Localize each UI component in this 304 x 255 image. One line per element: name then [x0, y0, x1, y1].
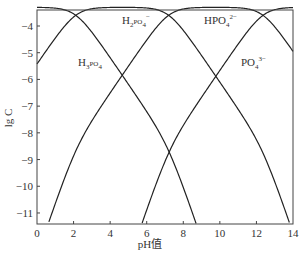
- y-axis-label: lg C: [2, 109, 14, 128]
- plot-frame: [37, 10, 293, 224]
- curve-h2po4: [37, 7, 289, 222]
- x-tick-label: 2: [71, 227, 77, 239]
- y-tick-label: −7: [21, 100, 33, 112]
- curve-po4: [142, 8, 293, 223]
- y-axis-ticks: −4−5−6−7−8−9−10−11: [16, 20, 40, 219]
- y-tick-label: −11: [16, 207, 33, 219]
- x-tick-label: 8: [181, 227, 187, 239]
- y-tick-label: −10: [16, 180, 34, 192]
- x-tick-label: 14: [288, 227, 300, 239]
- label-hpo4: HPO42−: [204, 13, 237, 29]
- x-tick-label: 12: [251, 227, 262, 239]
- y-tick-label: −8: [21, 127, 33, 139]
- label-po4: PO43−: [241, 55, 266, 71]
- curve-h3po4: [37, 7, 196, 223]
- x-tick-label: 10: [214, 227, 226, 239]
- x-tick-label: 4: [107, 227, 113, 239]
- y-tick-label: −9: [21, 154, 33, 166]
- plot-curves: [37, 7, 293, 223]
- x-tick-label: 0: [34, 227, 40, 239]
- y-tick-label: −6: [21, 73, 33, 85]
- y-tick-label: −4: [21, 20, 33, 32]
- phosphate-distribution-chart: 02468101214 −4−5−6−7−8−9−10−11 H2PO4−H3P…: [0, 0, 304, 255]
- label-h2po4: H2PO4−: [122, 13, 150, 29]
- y-tick-label: −5: [21, 47, 33, 59]
- curve-labels: H2PO4−H3PO4HPO42−PO43−: [78, 13, 266, 71]
- curve-hpo4: [49, 7, 293, 222]
- x-axis-label: pH值: [138, 238, 162, 250]
- label-h3po4: H3PO4: [78, 56, 102, 71]
